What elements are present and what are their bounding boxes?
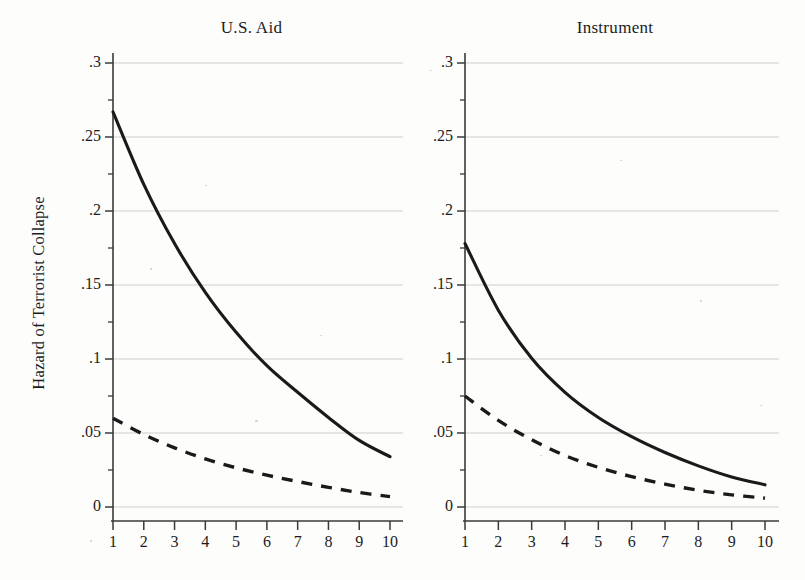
curve-us-aid-solid [113,112,390,457]
plot-area [0,0,805,580]
y-tick-label-p1-p05: .05 [405,424,453,440]
y-tick-label-p0-p15: .15 [53,276,101,292]
y-tick-label-p1-0: 0 [405,498,453,514]
y-tick-label-p0-p25: .25 [53,128,101,144]
y-tick-label-p0-p1: .1 [53,350,101,366]
x-tick-label-p1-10: 10 [745,534,785,550]
y-tick-label-p1-p25: .25 [405,128,453,144]
panel-title-instrument: Instrument [465,18,765,38]
x-tick-label-p0-10: 10 [370,534,410,550]
panel-title-us-aid: U.S. Aid [113,18,390,38]
y-tick-label-p0-0: 0 [53,498,101,514]
y-tick-label-p0-p05: .05 [53,424,101,440]
curve-instrument-dashed [465,396,765,498]
y-tick-label-p0-p2: .2 [53,202,101,218]
y-tick-label-p1-p15: .15 [405,276,453,292]
figure-container: U.S. Aid Instrument Hazard of Terrorist … [0,0,805,580]
y-tick-label-p0-p3: .3 [53,54,101,70]
y-tick-label-p1-p1: .1 [405,350,453,366]
curve-instrument-solid [465,244,765,485]
y-axis-label: Hazard of Terrorist Collapse [29,128,49,458]
y-tick-label-p1-p3: .3 [405,54,453,70]
y-tick-label-p1-p2: .2 [405,202,453,218]
curve-us-aid-dashed [113,418,390,496]
